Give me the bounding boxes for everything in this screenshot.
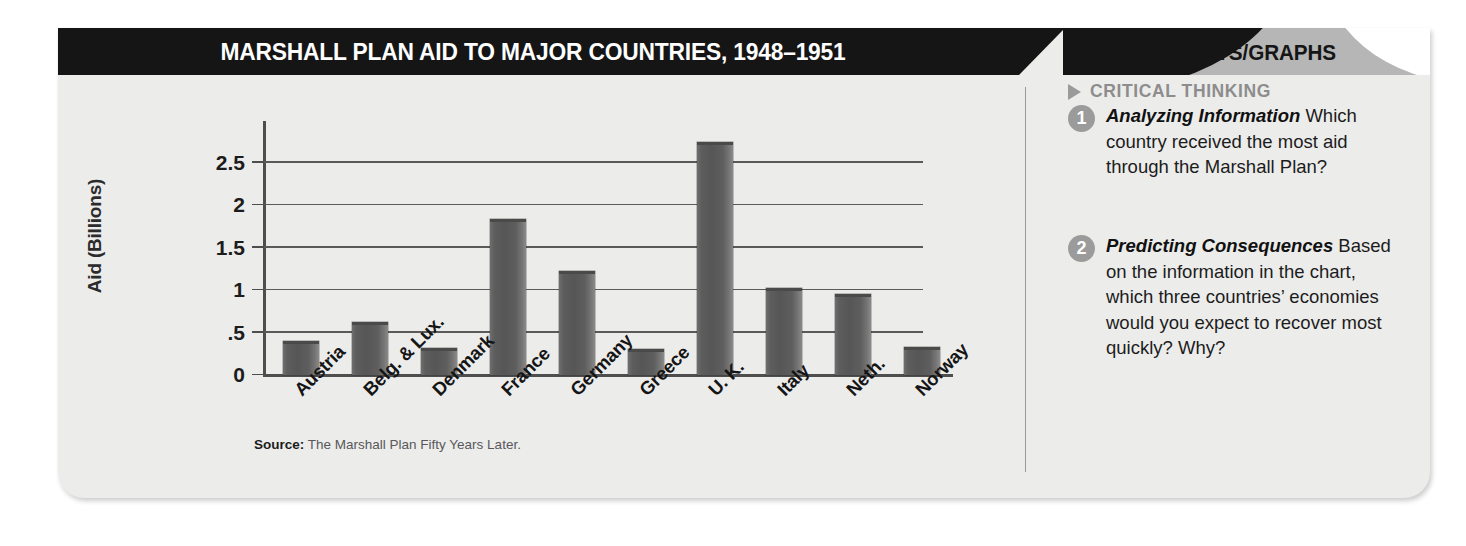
bar-cap [559, 271, 595, 274]
bar-cap [490, 219, 526, 222]
chart-card: MARSHALL PLAN AID TO MAJOR COUNTRIES, 19… [58, 28, 1430, 498]
question-lead: Predicting Consequences [1106, 235, 1333, 256]
question-number-badge: 1 [1068, 105, 1095, 132]
critical-thinking-heading: CRITICAL THINKING [1090, 81, 1271, 102]
bar [559, 271, 595, 375]
question-lead: Analyzing Information [1106, 105, 1300, 126]
y-axis-tick-label: 0 [233, 363, 245, 387]
title-bar-slant [1019, 28, 1063, 75]
bar [490, 219, 526, 375]
bar-slot [266, 133, 335, 375]
y-axis-tick [252, 246, 264, 248]
question-text: Analyzing Information Which country rece… [1106, 103, 1398, 180]
source-label: Source: [254, 437, 304, 452]
bar-slot [887, 133, 956, 375]
bar [697, 142, 733, 376]
triangle-right-icon [1068, 84, 1081, 100]
section-tab[interactable]: CHARTS/GRAPHS [1063, 28, 1430, 75]
chart-area: Aid (Billions) 0.511.522.5 AustriaBelg. … [58, 75, 1025, 498]
y-axis-tick [252, 161, 264, 163]
critical-thinking-question: 2Predicting Consequences Based on the in… [1068, 233, 1398, 361]
bar-slot [680, 133, 749, 375]
bars-layer [266, 133, 953, 375]
y-axis-tick [252, 204, 264, 206]
y-axis-tick-label: 1 [233, 278, 245, 302]
y-axis-tick-label: .5 [227, 321, 245, 345]
page-title: MARSHALL PLAN AID TO MAJOR COUNTRIES, 19… [91, 28, 975, 75]
bar-cap [904, 347, 940, 350]
y-axis-tick-label: 2.5 [216, 151, 245, 175]
y-axis-tick-label: 1.5 [216, 236, 245, 260]
title-bar: MARSHALL PLAN AID TO MAJOR COUNTRIES, 19… [58, 28, 1063, 75]
y-axis-title: Aid (Billions) [84, 151, 106, 321]
plot-area: 0.511.522.5 AustriaBelg. & Lux.DenmarkFr… [263, 133, 953, 375]
bar-slot [818, 133, 887, 375]
panel-divider [1025, 87, 1026, 472]
bar-cap [352, 322, 388, 325]
question-text: Predicting Consequences Based on the inf… [1106, 233, 1398, 361]
bar-cap [283, 341, 319, 344]
source-text: The Marshall Plan Fifty Years Later. [308, 437, 521, 452]
critical-thinking-question: 1Analyzing Information Which country rec… [1068, 103, 1398, 180]
y-axis-tick [252, 331, 264, 333]
bar-cap [766, 288, 802, 291]
page-root: MARSHALL PLAN AID TO MAJOR COUNTRIES, 19… [0, 0, 1466, 546]
y-axis-tick [252, 289, 264, 291]
card-body: Aid (Billions) 0.511.522.5 AustriaBelg. … [58, 75, 1430, 498]
question-number-badge: 2 [1068, 235, 1095, 262]
bar-slot [335, 133, 404, 375]
bar-cap [835, 294, 871, 297]
bar-slot [542, 133, 611, 375]
section-tab-label: CHARTS/GRAPHS [1074, 28, 1419, 75]
bar-cap [697, 142, 733, 145]
y-axis-tick [252, 374, 264, 376]
bar-slot [749, 133, 818, 375]
y-axis-tick-label: 2 [233, 193, 245, 217]
critical-thinking-panel: CRITICAL THINKING 1Analyzing Information… [1048, 75, 1430, 498]
source-note: Source: The Marshall Plan Fifty Years La… [254, 437, 521, 452]
